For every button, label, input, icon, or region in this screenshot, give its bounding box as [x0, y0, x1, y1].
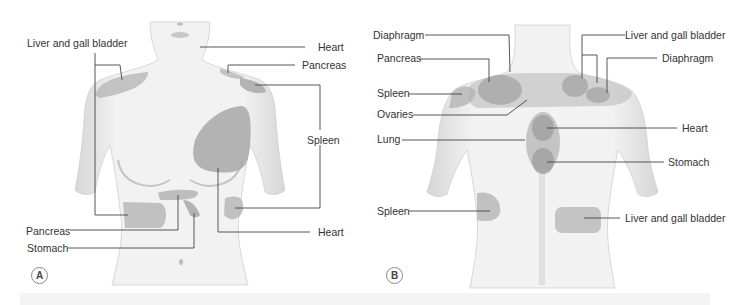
label-stomach: Stomach	[27, 242, 68, 254]
figure-b-posterior: Diaphragm Pancreas Spleen Ovaries Lung S…	[367, 0, 733, 290]
panel-letter-a: A	[31, 267, 48, 284]
region-stomach-back	[532, 148, 554, 174]
label-diaphragm-right: Diaphragm	[662, 52, 713, 64]
label-heart-top: Heart	[318, 41, 344, 53]
label-liver-gall-bladder-bottom: Liver and gall bladder	[625, 212, 725, 224]
region-liver-gall-bladder-abdomen	[123, 202, 166, 228]
label-stomach: Stomach	[668, 156, 709, 168]
region-diaphragm-right	[586, 87, 610, 103]
region-liver-gall-bladder-shoulder	[562, 75, 588, 97]
label-pancreas-top: Pancreas	[302, 59, 346, 71]
label-spleen-bottom: Spleen	[377, 205, 410, 217]
label-pancreas: Pancreas	[377, 52, 421, 64]
label-heart-bottom: Heart	[318, 226, 344, 238]
label-pancreas-bottom: Pancreas	[26, 225, 70, 237]
region-liver-gall-bladder-lower-back	[555, 207, 601, 233]
label-heart: Heart	[682, 122, 708, 134]
panel-letter-b: B	[386, 267, 403, 284]
label-spleen: Spleen	[307, 134, 340, 146]
label-liver-gall-bladder-top: Liver and gall bladder	[625, 29, 725, 41]
label-diaphragm-left: Diaphragm	[373, 29, 424, 41]
label-liver-gall-bladder: Liver and gall bladder	[27, 37, 127, 49]
label-lung: Lung	[377, 133, 400, 145]
figure-a-anterior: Liver and gall bladder Heart Pancreas Sp…	[0, 0, 366, 290]
label-spleen-top: Spleen	[377, 87, 410, 99]
label-ovaries: Ovaries	[377, 108, 413, 120]
bottom-caption-band	[20, 293, 710, 305]
region-pancreas-diaphragm-left	[478, 75, 522, 105]
posterior-body-illustration	[367, 0, 733, 290]
